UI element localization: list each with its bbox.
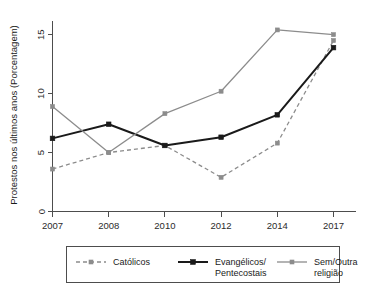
legend-label-2-line2: religião — [314, 268, 343, 278]
data-point — [332, 33, 336, 37]
data-point — [275, 141, 279, 145]
y-tick-label: 10 — [36, 88, 47, 99]
y-tick-label: 5 — [36, 150, 47, 155]
legend-marker-2 — [290, 260, 294, 264]
x-tick-label: 2014 — [267, 220, 288, 231]
y-axis-title: Protestos nos últimos anos (Porcentagem) — [8, 25, 19, 205]
legend-label-1-line2: Pentecostais — [215, 268, 267, 278]
x-tick-label: 2012 — [211, 220, 232, 231]
data-point — [219, 135, 224, 140]
y-tick-label: 0 — [36, 209, 47, 214]
legend-marker-1 — [191, 260, 196, 265]
y-tick-label: 15 — [36, 29, 47, 40]
data-point — [163, 143, 168, 148]
line-chart: Protestos nos últimos anos (Porcentagem)… — [0, 0, 387, 295]
legend-marker-0 — [89, 260, 93, 264]
data-point — [219, 89, 223, 93]
series-line-0 — [53, 41, 334, 178]
data-point — [275, 113, 280, 118]
data-point — [51, 167, 55, 171]
data-point — [50, 136, 55, 141]
data-point — [107, 151, 111, 155]
legend-box — [67, 247, 340, 283]
data-point — [331, 45, 336, 50]
data-point — [219, 175, 223, 179]
series-line-1 — [53, 48, 334, 146]
data-point — [163, 112, 167, 116]
data-point — [332, 39, 336, 43]
chart-figure: Protestos nos últimos anos (Porcentagem)… — [0, 0, 387, 295]
y-axis-ticks: 051015 — [36, 29, 53, 214]
series-layer — [50, 28, 336, 179]
legend-label-0: Católicos — [113, 257, 151, 267]
x-tick-label: 2007 — [42, 220, 63, 231]
x-axis-ticks: 200720082010201220142017 — [42, 212, 344, 232]
legend-label-2: Sem/Outra — [314, 257, 358, 267]
x-tick-label: 2010 — [154, 220, 175, 231]
legend-label-1: Evangélicos/ — [215, 257, 267, 267]
data-point — [51, 105, 55, 109]
x-tick-label: 2008 — [98, 220, 119, 231]
data-point — [106, 122, 111, 127]
x-tick-label: 2017 — [323, 220, 344, 231]
data-point — [275, 28, 279, 32]
series-line-2 — [53, 30, 334, 153]
